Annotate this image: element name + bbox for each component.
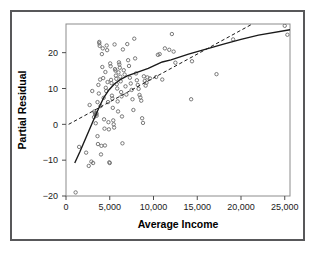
x-tick-label: 10,000	[140, 202, 168, 212]
data-point	[88, 103, 91, 106]
data-point	[117, 71, 120, 74]
data-point	[74, 191, 77, 194]
x-tick-label: 0	[63, 202, 68, 212]
data-point	[126, 58, 129, 61]
x-tick-label: 5,000	[98, 202, 121, 212]
data-point	[161, 78, 164, 81]
data-point	[168, 48, 171, 51]
data-point	[127, 64, 130, 67]
data-point	[140, 99, 143, 102]
data-point	[126, 42, 129, 45]
data-point	[121, 142, 124, 145]
data-point	[119, 75, 122, 78]
data-point	[104, 70, 107, 73]
y-tick-label: 0	[53, 120, 58, 130]
data-point	[101, 65, 104, 68]
data-point	[140, 117, 143, 120]
data-point	[103, 127, 106, 130]
data-point	[105, 48, 108, 51]
data-point	[133, 37, 136, 40]
data-point	[105, 44, 108, 47]
data-point	[87, 164, 90, 167]
data-point	[283, 24, 286, 27]
data-point	[101, 76, 104, 79]
x-tick-label: 15,000	[183, 202, 211, 212]
data-point	[106, 80, 109, 83]
x-tick-label: 20,000	[227, 202, 255, 212]
chart-figure: 05,00010,00015,00020,00025,000−20−100102…	[0, 0, 319, 253]
data-point	[97, 92, 100, 95]
data-point	[129, 82, 132, 85]
data-point	[96, 100, 99, 103]
data-point	[120, 115, 123, 118]
data-point	[123, 73, 126, 76]
data-point	[96, 134, 99, 137]
data-point	[122, 69, 125, 72]
data-point	[121, 48, 124, 51]
data-point	[172, 50, 175, 53]
data-point	[286, 33, 289, 36]
data-point	[163, 47, 166, 50]
y-tick-label: 10	[48, 84, 58, 94]
data-point	[116, 110, 119, 113]
data-point	[99, 153, 102, 156]
data-point	[124, 85, 127, 88]
y-tick-label: 20	[48, 48, 58, 58]
data-point	[119, 90, 122, 93]
scatter-plot: 05,00010,00015,00020,00025,000−20−100102…	[0, 0, 319, 253]
data-point	[107, 120, 110, 123]
y-tick-label: −10	[43, 155, 58, 165]
x-axis-title: Average Income	[138, 218, 219, 230]
data-point	[132, 108, 135, 111]
data-point	[84, 151, 87, 154]
data-point	[111, 106, 114, 109]
data-point	[128, 76, 131, 79]
data-point	[112, 119, 115, 122]
data-point	[91, 89, 94, 92]
x-tick-label: 25,000	[271, 202, 299, 212]
data-point	[115, 87, 118, 90]
data-point	[189, 98, 192, 101]
data-point	[116, 100, 119, 103]
data-point	[215, 72, 218, 75]
data-point	[135, 79, 138, 82]
data-point	[125, 93, 128, 96]
linear-fit	[69, 24, 253, 124]
data-point	[190, 60, 193, 63]
data-point	[101, 47, 104, 50]
data-point	[113, 43, 116, 46]
data-point	[170, 32, 173, 35]
data-layer	[69, 24, 290, 194]
data-point	[97, 83, 100, 86]
data-point	[107, 128, 110, 131]
plot-frame	[66, 24, 290, 196]
smooth-fit	[75, 30, 290, 163]
data-point	[174, 61, 177, 64]
data-point	[131, 98, 134, 101]
data-point	[94, 122, 97, 125]
data-point	[100, 144, 103, 147]
data-point	[103, 144, 106, 147]
data-point	[100, 52, 103, 55]
data-point	[137, 87, 140, 90]
data-point	[96, 142, 99, 145]
data-point	[102, 118, 105, 121]
data-point	[141, 121, 144, 124]
data-point	[142, 75, 145, 78]
y-axis-title: Partial Residual	[16, 71, 28, 150]
y-tick-label: −20	[43, 191, 58, 201]
data-point	[133, 57, 136, 60]
data-point	[77, 145, 80, 148]
